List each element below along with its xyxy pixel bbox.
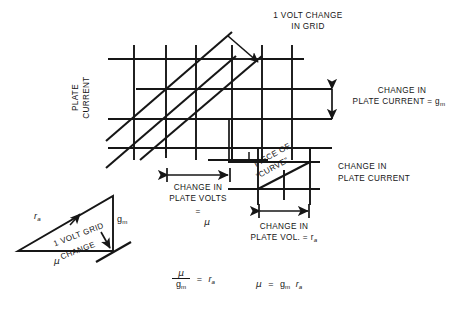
plate-volts-equals: = bbox=[195, 207, 200, 216]
y-axis-label-plate: PLATE bbox=[70, 50, 81, 145]
callout-plate-vol-ra-line1: CHANGE IN bbox=[228, 221, 340, 232]
callout-grid-change-line1: 1 VOLT CHANGE bbox=[248, 10, 368, 21]
equation-two-gm: gm bbox=[280, 279, 290, 289]
equation-one-denominator-subscript: m bbox=[181, 283, 186, 290]
triangle-label-ra-subscript: a bbox=[37, 215, 41, 222]
equation-two-ra-subscript: a bbox=[299, 283, 302, 290]
figure-canvas: PLATE CURRENT 1 VOLT CHANGE IN GRID CHAN… bbox=[0, 0, 459, 311]
callout-grid-change-line2: IN GRID bbox=[248, 21, 368, 32]
equation-two-lhs: μ bbox=[256, 279, 262, 289]
callout-plate-vol-ra-text: PLATE VOL. = r bbox=[250, 233, 313, 242]
equation-one-numerator: μ bbox=[172, 268, 190, 278]
equation-two-equals: = bbox=[264, 279, 277, 289]
callout-plate-current-line1: CHANGE IN bbox=[338, 161, 458, 172]
diagram-artwork bbox=[0, 0, 459, 311]
equation-one-denominator: gm bbox=[172, 278, 190, 290]
callout-plate-vol-ra-line2: PLATE VOL. = ra bbox=[224, 232, 344, 245]
callout-plate-volts-mu-line2: PLATE VOLTS bbox=[146, 193, 250, 204]
equation-two-gm-subscript: m bbox=[285, 283, 290, 290]
equation-one-fraction: μ gm bbox=[172, 268, 190, 290]
plate-volts-mu-symbol: μ bbox=[204, 217, 210, 227]
callout-plate-volts-mu-line1: CHANGE IN bbox=[146, 182, 250, 193]
equation-one-rhs: ra bbox=[208, 274, 214, 284]
callout-plate-current-gm-line2: PLATE CURRENT = gm bbox=[340, 96, 458, 109]
callout-plate-current-gm-line1: CHANGE IN bbox=[346, 85, 458, 96]
equation-one-rhs-subscript: a bbox=[211, 277, 214, 284]
equation-one-equals: = bbox=[193, 274, 206, 284]
callout-plate-vol-ra-subscript: a bbox=[314, 236, 318, 243]
equation-two-ra: ra bbox=[293, 279, 302, 289]
callout-plate-current-gm-subscript: m bbox=[440, 100, 446, 107]
y-axis-label-current: CURRENT bbox=[81, 50, 92, 145]
equation-two: μ = gm ra bbox=[256, 279, 302, 290]
callout-plate-current-gm-text: PLATE CURRENT = g bbox=[353, 97, 440, 106]
triangle-label-ra: ra bbox=[34, 211, 41, 224]
equation-one: μ gm = ra bbox=[172, 268, 215, 290]
callout-plate-current-line2: PLATE CURRENT bbox=[338, 173, 458, 184]
